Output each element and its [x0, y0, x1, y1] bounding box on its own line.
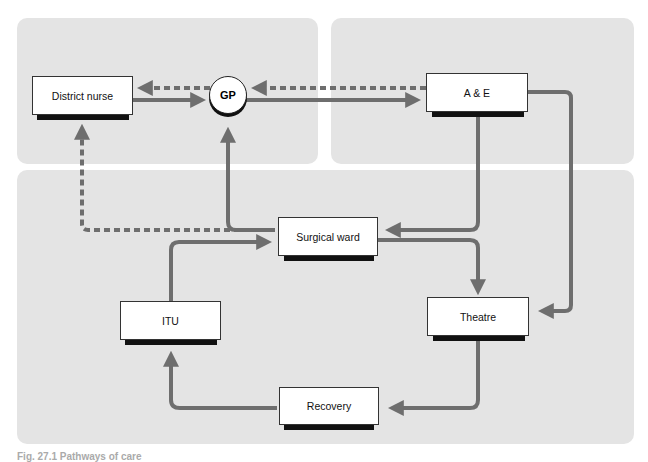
figure-caption: Fig. 27.1 Pathways of care — [17, 451, 142, 462]
node-gp[interactable]: GP — [209, 76, 247, 114]
edge-theatre-to-recovery — [395, 334, 478, 408]
node-district-nurse[interactable]: District nurse — [32, 76, 133, 115]
node-label: ITU — [162, 315, 179, 327]
node-itu[interactable]: ITU — [120, 301, 221, 340]
node-label: Theatre — [460, 311, 496, 323]
node-label: Recovery — [307, 400, 351, 412]
edge-ae-to-theatre — [528, 92, 571, 311]
node-recovery[interactable]: Recovery — [279, 387, 379, 425]
edge-ward-to-nurse — [82, 131, 240, 230]
node-theatre[interactable]: Theatre — [427, 297, 529, 336]
edge-itu-to-ward — [171, 242, 265, 302]
node-ae[interactable]: A & E — [426, 73, 528, 112]
node-label: Surgical ward — [296, 231, 360, 243]
node-surgical-ward[interactable]: Surgical ward — [278, 217, 378, 256]
node-label: GP — [220, 89, 236, 101]
edge-ward-to-theatre — [378, 240, 478, 288]
node-label: A & E — [464, 87, 490, 99]
edge-recovery-to-itu — [171, 358, 277, 408]
edge-ward-to-gp — [228, 134, 275, 230]
edge-ae-to-ward — [392, 112, 478, 230]
node-label: District nurse — [52, 90, 113, 102]
